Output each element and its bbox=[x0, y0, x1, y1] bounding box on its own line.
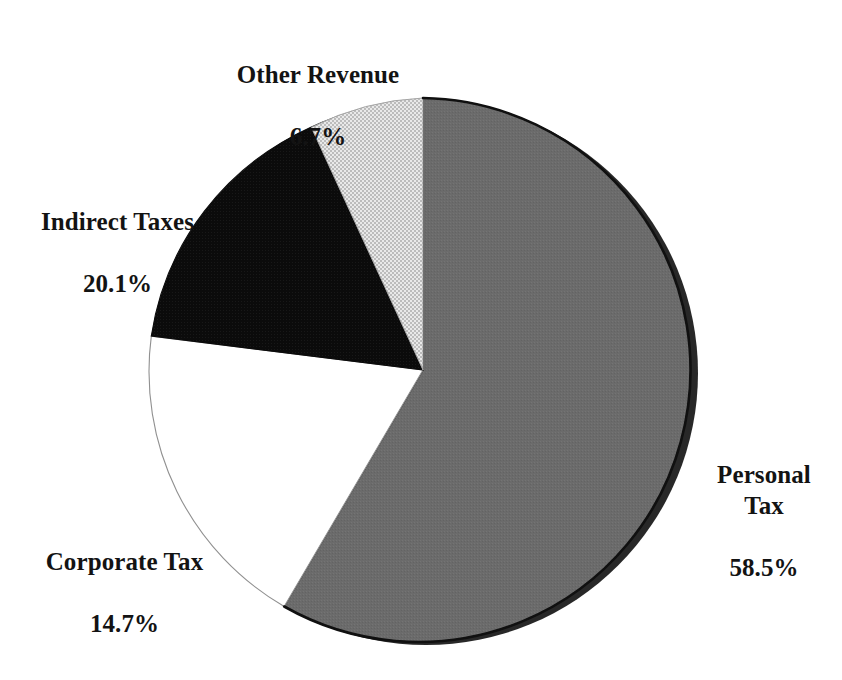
pie-label-other-revenue-value: 6.7% bbox=[198, 121, 438, 152]
pie-label-personal-tax: Personal Tax 58.5% bbox=[694, 428, 834, 614]
pie-label-corporate-tax-value: 14.7% bbox=[12, 608, 237, 639]
pie-label-corporate-tax-name: Corporate Tax bbox=[12, 546, 237, 577]
pie-label-indirect-taxes: Indirect Taxes 20.1% bbox=[5, 175, 230, 330]
pie-label-other-revenue: Other Revenue 6.7% bbox=[198, 28, 438, 183]
pie-label-indirect-taxes-name: Indirect Taxes bbox=[5, 206, 230, 237]
pie-label-corporate-tax: Corporate Tax 14.7% bbox=[12, 515, 237, 670]
pie-label-personal-tax-value: 58.5% bbox=[694, 552, 834, 583]
pie-label-indirect-taxes-value: 20.1% bbox=[5, 268, 230, 299]
pie-label-personal-tax-name: Personal Tax bbox=[694, 459, 834, 521]
pie-label-other-revenue-name: Other Revenue bbox=[198, 59, 438, 90]
pie-chart-figure: Other Revenue 6.7% Indirect Taxes 20.1% … bbox=[0, 0, 842, 680]
